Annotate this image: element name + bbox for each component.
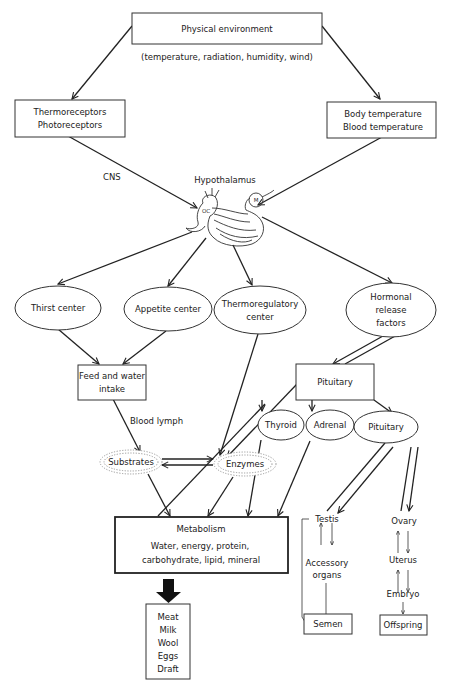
node-pituitary-ellipse: Pituitary	[354, 411, 418, 443]
node-feed-water-intake: Feed and water intake	[78, 365, 146, 400]
edge-env-bodytemp	[322, 26, 380, 99]
adrenal-label: Adrenal	[314, 420, 347, 430]
node-products: Meat Milk Wool Eggs Draft	[146, 604, 190, 679]
thyroid-label: Thyroid	[264, 420, 297, 430]
edge-bodytemp-hypothalamus	[258, 137, 382, 205]
edge-pituitary-hormonal	[345, 335, 397, 364]
product-item: Eggs	[158, 651, 179, 661]
hypothalamus-illustration: OC M	[186, 188, 274, 246]
node-thyroid: Thyroid	[258, 410, 304, 440]
edge-appetite-feed	[123, 331, 166, 364]
offspring-label: Offspring	[383, 620, 422, 630]
big-arrow-shaft	[163, 579, 174, 593]
product-item: Milk	[160, 625, 177, 635]
edge-hypo-hormonal	[262, 217, 392, 283]
edge-thermoreg-enzymes	[220, 334, 258, 455]
thermoregulatory-label: Thermoregulatory	[221, 299, 299, 309]
edge-env-receptors	[72, 26, 132, 99]
physical-environment-caption: (temperature, radiation, humidity, wind)	[141, 52, 313, 62]
embryo-label: Embryo	[387, 589, 420, 599]
thermoreceptors-label: Thermoreceptors	[33, 107, 107, 117]
physical-environment-label: Physical environment	[181, 24, 273, 34]
node-enzymes: Enzymes	[214, 452, 276, 476]
photoreceptors-label: Photoreceptors	[38, 120, 103, 130]
node-receptors: Thermoreceptors Photoreceptors	[15, 100, 125, 137]
body-temperature-label: Body temperature	[344, 109, 422, 119]
edge-hypo-thermoreg	[233, 245, 252, 285]
thirst-center-label: Thirst center	[30, 303, 86, 313]
node-hormonal-release-factors: Hormonal release factors	[346, 283, 436, 337]
node-offspring: Offspring	[380, 615, 427, 635]
release-label: release	[376, 305, 407, 315]
feed-water-label: Feed and water	[79, 371, 145, 381]
edge-receptors-hypothalamus	[68, 136, 197, 208]
edge-thirst-feed	[58, 329, 99, 364]
node-substrates: Substrates	[100, 450, 162, 474]
edge-pituitary2-ovary	[409, 447, 418, 511]
edge-hypo-thirst	[58, 232, 192, 284]
factors-label: factors	[376, 318, 406, 328]
edge-adrenal-metabolism	[278, 441, 310, 516]
node-semen: Semen	[304, 614, 352, 634]
big-arrow-head-icon	[156, 592, 181, 603]
cns-edge-label: CNS	[103, 172, 121, 182]
edge-pituitary2-testis	[338, 447, 393, 513]
blood-temperature-label: Blood temperature	[343, 122, 423, 132]
node-metabolism: Metabolism Water, energy, protein, carbo…	[115, 517, 288, 573]
edge-substrates-metabolism	[148, 474, 170, 516]
edge-testis-pituitary2	[327, 443, 385, 511]
metabolism-line1: Water, energy, protein,	[151, 541, 249, 551]
appetite-center-label: Appetite center	[135, 304, 202, 314]
node-physical-environment: Physical environment (temperature, radia…	[132, 13, 322, 62]
node-thermoregulatory-center: Thermoregulatory center	[214, 286, 306, 334]
node-hypothalamus: Hypothalamus OC M	[186, 175, 274, 246]
physiology-flow-diagram: Physical environment (temperature, radia…	[0, 0, 449, 689]
oc-label: OC	[202, 208, 210, 214]
m-label: M	[254, 197, 259, 203]
accessory-label: Accessory	[306, 558, 349, 568]
node-appetite-center: Appetite center	[124, 287, 212, 331]
blood-lymph-edge-label: Blood lymph	[130, 416, 183, 426]
hypothalamus-label: Hypothalamus	[194, 175, 256, 185]
node-body-temperature: Body temperature Blood temperature	[327, 102, 436, 138]
substrates-label: Substrates	[108, 457, 154, 467]
edge-thyroid-metabolism	[248, 440, 261, 516]
ovary-label: Ovary	[391, 516, 416, 526]
edge-hormonal-pituitary	[333, 336, 383, 364]
testis-label: Testis	[314, 514, 339, 524]
pituitary-ellipse-label: Pituitary	[368, 422, 403, 432]
metabolism-title: Metabolism	[176, 524, 225, 534]
product-item: Wool	[158, 638, 179, 648]
intake-label: intake	[99, 384, 125, 394]
enzymes-label: Enzymes	[226, 459, 265, 469]
thermoregulatory-center-label: center	[246, 312, 274, 322]
edge-ovary-pituitary2	[401, 447, 411, 511]
product-item: Meat	[157, 612, 179, 622]
node-pituitary-box: Pituitary	[296, 364, 374, 400]
semen-label: Semen	[313, 619, 343, 629]
hormonal-label: Hormonal	[370, 292, 411, 302]
edge-enzymes-metabolism	[208, 477, 233, 516]
organs-label: organs	[313, 570, 343, 580]
edge-hypo-appetite	[168, 238, 206, 286]
node-adrenal: Adrenal	[306, 410, 354, 440]
node-thirst-center: Thirst center	[15, 286, 101, 330]
uterus-label: Uterus	[389, 555, 418, 565]
pituitary-box-label: Pituitary	[317, 377, 352, 387]
metabolism-line2: carbohydrate, lipid, mineral	[142, 555, 260, 565]
product-item: Draft	[157, 664, 179, 674]
